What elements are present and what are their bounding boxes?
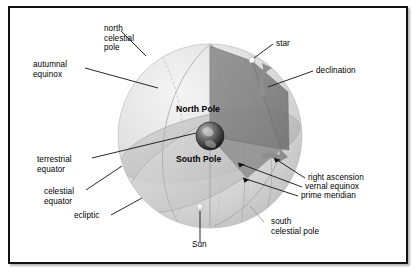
leader-ecliptic <box>111 198 142 215</box>
sun-marker <box>197 204 204 211</box>
figure-root: north celestial pole autumnal equinox te… <box>0 0 419 276</box>
label-north-pole: North Pole <box>176 105 220 115</box>
label-terrestrial-equator: terrestrial equator <box>37 155 72 174</box>
celestial-sphere <box>113 44 307 233</box>
earth-globe <box>196 122 224 150</box>
label-declination: declination <box>316 66 356 76</box>
label-ecliptic: ecliptic <box>74 211 99 221</box>
label-right-ascension: right ascension <box>308 173 364 183</box>
label-autumnal-equinox: autumnal equinox <box>33 60 67 79</box>
leader-star <box>254 44 273 58</box>
label-vernal-equinox: vernal equinox <box>305 182 359 192</box>
label-south-celestial-pole: south celestial pole <box>271 217 319 236</box>
leader-celestial-equator <box>86 166 122 190</box>
label-south-pole: South Pole <box>176 155 221 165</box>
label-north-celestial-pole: north celestial pole <box>104 24 134 53</box>
label-sun: Sun <box>192 240 207 250</box>
label-prime-meridian: prime meridian <box>301 191 356 201</box>
label-star: star <box>276 39 290 49</box>
label-celestial-equator: celestial equator <box>44 187 74 206</box>
celestial-sphere-illustration <box>0 0 419 276</box>
